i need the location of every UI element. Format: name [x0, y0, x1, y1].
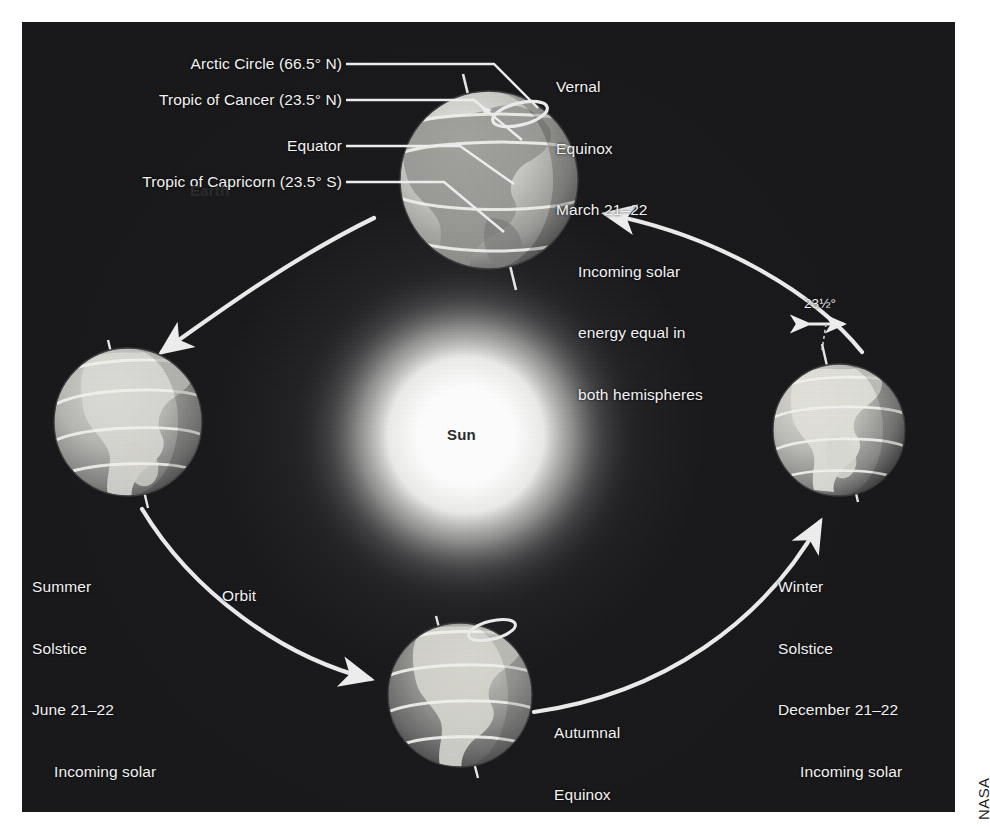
vernal-date: March 21–22: [556, 200, 703, 221]
vernal-note-2: energy equal in: [556, 323, 703, 344]
label-arctic-circle: Arctic Circle (66.5° N): [82, 54, 342, 75]
annotation-vernal-equinox: Vernal Equinox March 21–22 Incoming sola…: [556, 36, 703, 446]
annotation-winter-solstice: Winter Solstice December 21–22 Incoming …: [778, 536, 909, 812]
nasa-credit: NASA: [975, 778, 990, 820]
vernal-note-3: both hemispheres: [556, 385, 703, 406]
label-orbit: Orbit: [222, 586, 256, 607]
globe-winter-solstice: [772, 344, 906, 502]
annotation-summer-solstice: Summer Solstice June 21–22 Incoming sola…: [32, 536, 163, 812]
summer-kind: Solstice: [32, 639, 163, 660]
globe-autumnal-equinox: [388, 615, 532, 778]
label-equator: Equator: [142, 136, 342, 157]
winter-note-1: Incoming solar: [778, 762, 909, 783]
label-tropic-of-cancer: Tropic of Cancer (23.5° N): [42, 90, 342, 111]
diagram-panel: Arctic Circle (66.5° N) Tropic of Cancer…: [22, 22, 955, 812]
winter-kind: Solstice: [778, 639, 909, 660]
label-earth: Earth: [190, 182, 229, 199]
label-sun: Sun: [447, 426, 476, 443]
vernal-note-1: Incoming solar: [556, 262, 703, 283]
winter-name: Winter: [778, 577, 909, 598]
label-tropic-of-capricorn: Tropic of Capricorn (23.5° S): [32, 172, 342, 193]
seasons-diagram-figure: Arctic Circle (66.5° N) Tropic of Cancer…: [0, 0, 990, 827]
label-axial-tilt: 23½°: [804, 294, 836, 315]
summer-date: June 21–22: [32, 700, 163, 721]
vernal-kind: Equinox: [556, 139, 703, 160]
autumnal-kind: Equinox: [554, 785, 760, 806]
autumnal-name: Autumnal: [554, 723, 760, 744]
annotation-autumnal-equinox: Autumnal Equinox September 22–23 Incomin…: [554, 682, 760, 812]
globe-summer-solstice: [54, 340, 202, 508]
vernal-name: Vernal: [556, 77, 703, 98]
summer-note-1: Incoming solar: [32, 762, 163, 783]
winter-date: December 21–22: [778, 700, 909, 721]
summer-name: Summer: [32, 577, 163, 598]
